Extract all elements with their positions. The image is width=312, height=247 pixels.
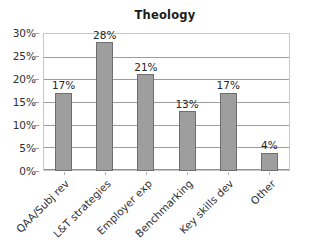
y-tick-label: 5% xyxy=(19,143,36,154)
bar-slot: 4% xyxy=(249,33,290,171)
bar-value-label: 17% xyxy=(52,80,75,91)
y-tick-label: 0% xyxy=(19,166,36,177)
bar[interactable] xyxy=(55,93,72,171)
y-tick-label: 10% xyxy=(13,120,36,131)
x-tick-mark xyxy=(187,172,188,175)
x-tick-mark xyxy=(64,172,65,175)
x-tick-mark xyxy=(228,172,229,175)
bar-value-label: 21% xyxy=(134,62,157,73)
bar-slot: 28% xyxy=(84,33,125,171)
bar-value-label: 28% xyxy=(93,30,116,41)
bar[interactable] xyxy=(220,93,237,171)
bar[interactable] xyxy=(179,111,196,171)
bar-slot: 13% xyxy=(167,33,208,171)
y-axis: 0%5%10%15%20%25%30% xyxy=(0,33,39,171)
x-axis: QAA/Subj revL&T strategiesEmployer expBe… xyxy=(43,172,290,247)
bar-slot: 17% xyxy=(43,33,84,171)
bar[interactable] xyxy=(261,153,278,171)
y-tick-label: 15% xyxy=(13,97,36,108)
bar[interactable] xyxy=(137,74,154,171)
bar-value-label: 4% xyxy=(261,140,278,151)
y-tick-label: 25% xyxy=(13,51,36,62)
y-tick-label: 20% xyxy=(13,74,36,85)
y-tick-label: 30% xyxy=(13,28,36,39)
y-tick-mark xyxy=(35,102,39,103)
bar-value-label: 13% xyxy=(175,99,198,110)
y-tick-mark xyxy=(35,79,39,80)
x-tick-mark xyxy=(105,172,106,175)
y-tick-mark xyxy=(35,125,39,126)
bar-value-label: 17% xyxy=(217,80,240,91)
y-tick-mark xyxy=(35,171,39,172)
x-tick-mark xyxy=(269,172,270,175)
x-slot: Other xyxy=(249,172,290,247)
bar-slot: 17% xyxy=(208,33,249,171)
x-tick-mark xyxy=(146,172,147,175)
bar[interactable] xyxy=(96,42,113,171)
x-tick-label: Other xyxy=(248,178,277,207)
y-tick-mark xyxy=(35,148,39,149)
x-slot: Key skills dev xyxy=(208,172,249,247)
chart-title: Theology xyxy=(40,8,290,22)
y-tick-mark xyxy=(35,56,39,57)
y-tick-mark xyxy=(35,33,39,34)
bars-layer: 17%28%21%13%17%4% xyxy=(43,33,290,171)
bar-slot: 21% xyxy=(125,33,166,171)
bar-chart: Theology 0%5%10%15%20%25%30% 17%28%21%13… xyxy=(0,0,312,247)
